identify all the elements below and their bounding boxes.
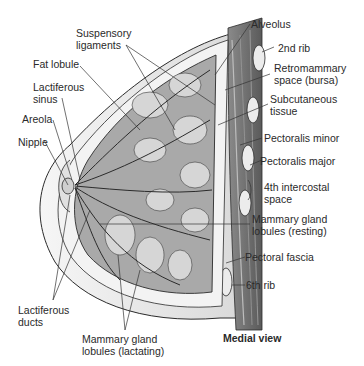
- label-line: sinus: [33, 93, 84, 105]
- label-subcutaneous-tissue: Subcutaneous tissue: [270, 93, 337, 117]
- label-line: Mammary gland: [82, 333, 164, 345]
- label-suspensory-ligaments: Suspensory ligaments: [76, 27, 131, 51]
- label-line: 6th rib: [246, 279, 275, 291]
- label-line: Subcutaneous: [270, 93, 337, 105]
- label-lobules-lactating: Mammary gland lobules (lactating): [82, 333, 164, 357]
- label-line: Pectoral fascia: [245, 251, 314, 263]
- label-6th-rib: 6th rib: [246, 279, 275, 291]
- label-pectoralis-major: Pectoralis major: [260, 155, 335, 167]
- label-2nd-rib: 2nd rib: [278, 42, 310, 54]
- label-lactiferous-ducts: Lactiferous ducts: [18, 304, 69, 328]
- label-line: tissue: [270, 105, 337, 117]
- caption-medial-view: Medial view: [223, 332, 281, 344]
- label-line: 4th intercostal: [264, 181, 329, 193]
- label-pectoralis-minor: Pectoralis minor: [264, 132, 339, 144]
- label-nipple: Nipple: [18, 136, 48, 148]
- label-line: Suspensory: [76, 27, 131, 39]
- label-line: space (bursa): [274, 74, 346, 86]
- label-line: Lactiferous: [18, 304, 69, 316]
- label-line: Mammary gland: [252, 213, 327, 225]
- label-lobules-resting: Mammary gland lobules (resting): [252, 213, 327, 237]
- label-line: space: [264, 193, 329, 205]
- label-alveolus: Alveolus: [251, 18, 291, 30]
- label-pectoral-fascia: Pectoral fascia: [245, 251, 314, 263]
- label-line: Areola: [22, 113, 52, 125]
- label-line: Pectoralis minor: [264, 132, 339, 144]
- label-line: Fat lobule: [33, 58, 79, 70]
- label-line: lobules (resting): [252, 225, 327, 237]
- label-lactiferous-sinus: Lactiferous sinus: [33, 81, 84, 105]
- label-line: 2nd rib: [278, 42, 310, 54]
- label-line: Lactiferous: [33, 81, 84, 93]
- label-line: Retromammary: [274, 62, 346, 74]
- label-fat-lobule: Fat lobule: [33, 58, 79, 70]
- label-line: Pectoralis major: [260, 155, 335, 167]
- label-line: Alveolus: [251, 18, 291, 30]
- label-line: ligaments: [76, 39, 131, 51]
- label-line: lobules (lactating): [82, 345, 164, 357]
- label-line: Nipple: [18, 136, 48, 148]
- label-areola: Areola: [22, 113, 52, 125]
- label-line: ducts: [18, 316, 69, 328]
- label-retromammary-space: Retromammary space (bursa): [274, 62, 346, 86]
- label-4th-intercostal-space: 4th intercostal space: [264, 181, 329, 205]
